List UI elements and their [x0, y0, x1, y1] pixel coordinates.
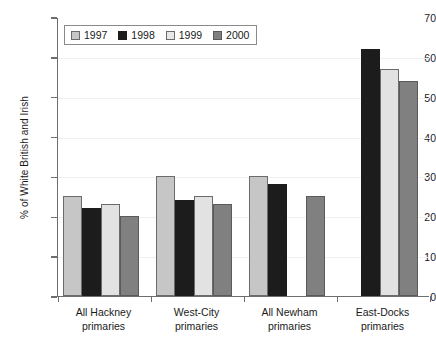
x-category-label: East-Docksprimaries: [336, 306, 429, 333]
legend-item-1998[interactable]: 1998: [118, 29, 154, 41]
legend: 1997 1998 1999 2000: [64, 25, 257, 45]
x-category-label: West-Cityprimaries: [150, 306, 243, 333]
x-tick-mark: [337, 296, 338, 302]
bar: [361, 49, 380, 296]
legend-label-1997: 1997: [84, 29, 107, 41]
bar: [249, 176, 268, 296]
bar: [82, 208, 101, 296]
bar: [120, 216, 139, 296]
x-category-label-line: East-Docks: [336, 306, 429, 320]
x-tick-mark: [430, 296, 431, 302]
legend-item-1999[interactable]: 1999: [166, 29, 202, 41]
y-axis-title: % of White British and Irish: [19, 58, 30, 258]
x-category-label-line: primaries: [243, 320, 336, 334]
legend-label-1998: 1998: [131, 29, 154, 41]
x-category-label-line: primaries: [336, 320, 429, 334]
legend-item-2000[interactable]: 2000: [213, 29, 249, 41]
x-category-label-line: West-City: [150, 306, 243, 320]
x-tick-mark: [151, 296, 152, 302]
bar: [101, 204, 120, 296]
x-category-label: All Hackneyprimaries: [57, 306, 150, 333]
legend-swatch-1999-icon: [166, 31, 175, 40]
bar: [268, 184, 287, 296]
bar-chart: % of White British and Irish 70605040302…: [0, 0, 436, 347]
bar: [194, 196, 213, 296]
bar: [156, 176, 175, 296]
legend-swatch-1997-icon: [71, 31, 80, 40]
bar: [63, 196, 82, 296]
x-category-label: All Newhamprimaries: [243, 306, 336, 333]
x-tick-mark: [58, 296, 59, 302]
bar: [399, 81, 418, 296]
bar: [380, 69, 399, 296]
x-category-label-line: primaries: [57, 320, 150, 334]
bar: [306, 196, 325, 296]
bar: [213, 204, 232, 296]
legend-swatch-2000-icon: [213, 31, 222, 40]
legend-label-2000: 2000: [226, 29, 249, 41]
bar: [175, 200, 194, 296]
x-category-label-line: All Newham: [243, 306, 336, 320]
legend-swatch-1998-icon: [118, 31, 127, 40]
x-category-label-line: primaries: [150, 320, 243, 334]
legend-item-1997[interactable]: 1997: [71, 29, 107, 41]
x-tick-mark: [244, 296, 245, 302]
plot-area: [57, 18, 429, 297]
x-category-label-line: All Hackney: [57, 306, 150, 320]
legend-label-1999: 1999: [179, 29, 202, 41]
